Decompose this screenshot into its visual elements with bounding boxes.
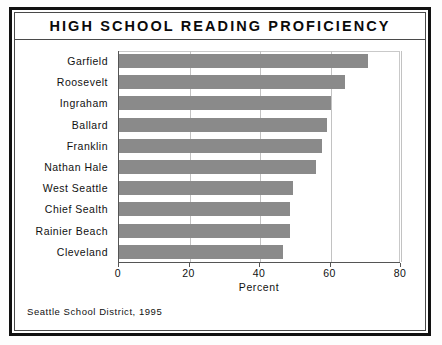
x-tick-label: 20 bbox=[182, 267, 195, 279]
bar bbox=[119, 118, 327, 132]
x-tick-label: 60 bbox=[323, 267, 336, 279]
y-tick-label: West Seattle bbox=[43, 178, 108, 199]
y-tick-label: Cleveland bbox=[57, 242, 108, 263]
bar bbox=[119, 224, 290, 238]
bar bbox=[119, 75, 345, 89]
y-tick-label: Franklin bbox=[67, 136, 108, 157]
x-tick-label: 80 bbox=[394, 267, 407, 279]
bar-slot bbox=[119, 221, 400, 242]
source-footnote: Seattle School District, 1995 bbox=[27, 306, 162, 317]
axes-box bbox=[118, 51, 400, 263]
x-tick-label: 40 bbox=[253, 267, 266, 279]
bar-slot bbox=[119, 72, 400, 93]
bar-slot bbox=[119, 115, 400, 136]
bar bbox=[119, 181, 293, 195]
bar-series bbox=[119, 51, 400, 262]
y-axis-labels: GarfieldRooseveltIngrahamBallardFranklin… bbox=[15, 51, 113, 263]
y-tick-label: Nathan Hale bbox=[44, 157, 108, 178]
chart-figure: HIGH SCHOOL READING PROFICIENCY Garfield… bbox=[0, 0, 442, 345]
bar bbox=[119, 245, 283, 259]
bar-slot bbox=[119, 178, 400, 199]
bar-slot bbox=[119, 136, 400, 157]
bar-slot bbox=[119, 157, 400, 178]
y-tick-label: Rainier Beach bbox=[36, 221, 108, 242]
bar bbox=[119, 54, 368, 68]
y-tick-label: Ingraham bbox=[60, 93, 108, 114]
bar-slot bbox=[119, 242, 400, 263]
x-tick-label: 0 bbox=[115, 267, 121, 279]
gridline-80 bbox=[401, 51, 402, 262]
y-tick-label: Chief Sealth bbox=[45, 199, 108, 220]
bar-slot bbox=[119, 93, 400, 114]
y-tick-label: Garfield bbox=[67, 51, 108, 72]
bar bbox=[119, 96, 331, 110]
bar bbox=[119, 139, 322, 153]
bar bbox=[119, 160, 316, 174]
bar-slot bbox=[119, 51, 400, 72]
x-axis-title: Percent bbox=[118, 281, 400, 293]
chart-title-band: HIGH SCHOOL READING PROFICIENCY bbox=[15, 13, 425, 40]
plot-area: GarfieldRooseveltIngrahamBallardFranklin… bbox=[15, 41, 425, 331]
y-tick-label: Ballard bbox=[72, 115, 108, 136]
chart-title: HIGH SCHOOL READING PROFICIENCY bbox=[49, 18, 390, 34]
x-axis-ticks: 020406080 bbox=[118, 263, 400, 281]
bar-slot bbox=[119, 199, 400, 220]
bar bbox=[119, 202, 290, 216]
y-tick-label: Roosevelt bbox=[57, 72, 108, 93]
